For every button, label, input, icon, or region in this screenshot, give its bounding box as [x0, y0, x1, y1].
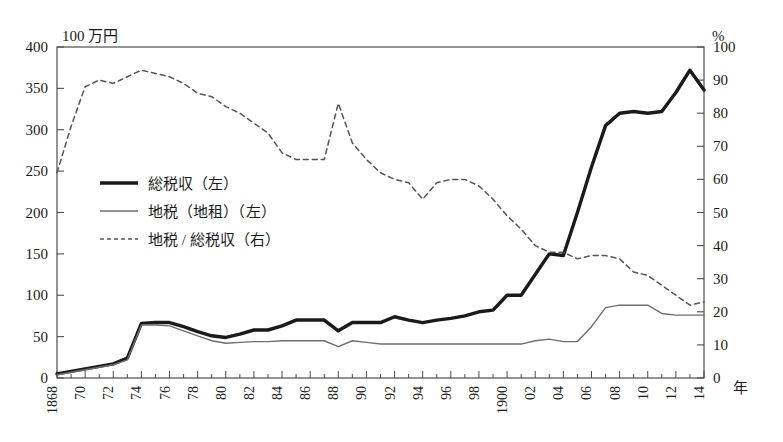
x-tick-label: 84: [270, 386, 285, 400]
x-tick-label: 70: [73, 386, 88, 400]
x-tick-label: 74: [129, 386, 144, 400]
left-tick-label: 50: [33, 329, 48, 345]
right-tick-label: 30: [713, 271, 728, 287]
right-tick-label: 20: [713, 304, 728, 320]
x-tick-label: 92: [383, 386, 398, 400]
x-tick-label: 98: [467, 386, 482, 400]
x-tick-label: 12: [664, 386, 679, 400]
right-tick-label: 10: [713, 337, 728, 353]
tax-revenue-line-chart: 100 万円 % 年 050100150200250300350400 0102…: [0, 0, 783, 442]
x-tick-label: 94: [411, 386, 426, 400]
x-tick-label: 72: [101, 386, 116, 400]
right-tick-label: 40: [713, 238, 728, 254]
legend-label-2: 地税（地租）（左）: [148, 204, 276, 220]
x-tick-label: 1900: [495, 386, 510, 414]
left-tick-label: 300: [26, 122, 49, 138]
x-tick-label: 14: [692, 386, 707, 400]
x-tick-label: 82: [242, 386, 257, 400]
x-tick-label: 06: [579, 386, 594, 400]
left-tick-label: 0: [41, 370, 49, 386]
left-tick-label: 100: [26, 287, 49, 303]
right-tick-label: 60: [713, 171, 728, 187]
x-tick-label: 86: [298, 386, 313, 400]
x-axis-unit-text: 年: [733, 380, 748, 396]
x-tick-label: 04: [551, 386, 566, 400]
right-tick-label: 70: [713, 138, 728, 154]
left-axis-unit-text: 100 万円: [62, 28, 118, 44]
left-axis-unit-label: 100 万円: [62, 28, 118, 44]
x-tick-label: 1868: [45, 386, 60, 414]
chart-figure: 100 万円 % 年 050100150200250300350400 0102…: [0, 0, 783, 442]
legend-label-1: 総税収（左）: [148, 176, 238, 192]
right-tick-label: 50: [713, 205, 728, 221]
left-tick-label: 250: [26, 163, 49, 179]
left-tick-label: 200: [26, 205, 49, 221]
left-tick-label: 350: [26, 80, 49, 96]
legend-label-3: 地税 / 総税収（右）: [148, 232, 280, 248]
x-tick-label: 90: [354, 386, 369, 400]
x-tick-label: 78: [186, 386, 201, 400]
x-tick-label: 80: [214, 386, 229, 400]
x-tick-label: 88: [326, 386, 341, 400]
right-tick-label: 0: [713, 370, 721, 386]
chart-background: [0, 0, 783, 442]
x-tick-label: 76: [158, 386, 173, 400]
right-tick-label: 80: [713, 105, 728, 121]
right-tick-label: 100: [713, 39, 736, 55]
x-tick-label: 10: [636, 386, 651, 400]
x-axis-unit-label: 年: [733, 380, 748, 396]
left-tick-label: 400: [26, 39, 49, 55]
x-tick-label: 08: [608, 386, 623, 400]
x-tick-label: 02: [523, 386, 538, 400]
right-tick-label: 90: [713, 72, 728, 88]
left-tick-label: 150: [26, 246, 49, 262]
x-tick-label: 96: [439, 386, 454, 400]
